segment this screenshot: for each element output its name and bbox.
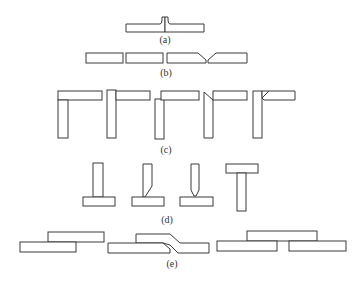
joint-e-joggled-lap [108,234,209,253]
label-a: (a) [159,34,170,45]
weld-joint-diagram: (a) (b) (c) (d) (e) [0,0,364,282]
diagram-drawing [0,0,364,282]
joint-c-corner-2 [107,90,150,138]
joint-c-corner-4-beveled [204,91,247,138]
joint-c-corner-1 [58,91,102,138]
joint-d-tee-2-single-bevel [132,164,164,206]
joint-d-tee-4-inverted [226,164,258,211]
joint-d-tee-1 [83,163,115,206]
label-b: (b) [160,67,172,78]
joint-c-corner-5-beveled [253,91,295,138]
joint-d-tee-3-double-bevel [180,164,213,206]
joint-b-v-groove-butt [167,53,247,63]
joint-c-corner-3 [155,91,199,139]
joint-b-square-butt [86,53,163,63]
joint-e-strap-lap [217,231,346,251]
label-d: (d) [161,214,173,225]
joint-a-flanged-butt [126,17,204,32]
label-c: (c) [160,144,171,155]
label-e: (e) [166,258,177,269]
joint-e-lap-1 [20,232,104,252]
